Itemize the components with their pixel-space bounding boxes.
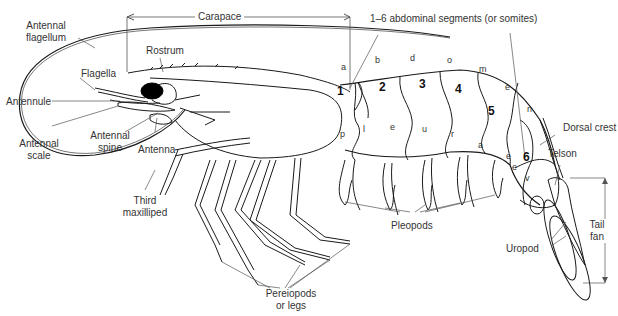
label-rostrum: Rostrum [146,45,184,57]
segment-number-4: 4 [455,82,462,96]
segment-number-6: 6 [523,150,530,164]
eye [141,83,163,99]
label-line: maxilliped [120,207,170,219]
pleura-letter: r [451,129,454,139]
pleopod-3 [422,160,432,210]
label-line: scale [18,150,60,162]
pereiopod-2 [215,160,258,285]
label-telson: Telson [548,148,577,160]
label-line: or legs [262,300,320,312]
label-line: Antennal [89,130,131,142]
segment-number-2: 2 [379,80,386,94]
segment6-letter: e [506,151,511,161]
segment-number-1: 1 [337,84,344,98]
label-antennal-scale: Antennal scale [18,138,60,162]
pleura-letter: e [390,122,395,132]
label-line: Pereiopods [262,288,320,300]
label-tail-fan: Tail fan [585,219,609,243]
label-line: flagellum [18,32,74,44]
abdomen-letter: e [505,82,510,92]
pleura-letter: p [340,129,345,139]
segment-number-3: 3 [419,77,426,91]
pleura-letter: a [478,140,483,150]
pleura-letter: u [422,124,427,134]
pleopod-5 [492,160,503,198]
label-line: fan [585,231,609,243]
label-antennule: Antennule [6,96,51,108]
pereiopod-1 [195,160,222,262]
pleopod-2 [383,163,395,210]
label-line: Tail [585,219,609,231]
pleura-letter: l [363,124,365,134]
label-antenna: Antenna [138,144,175,156]
label-third-maxilliped: Third maxilliped [120,195,170,219]
label-dorsal-crest: Dorsal crest [563,122,616,134]
label-pleopods: Pleopods [391,220,433,232]
label-antennal-spine: Antennal spine [89,130,131,154]
abdomen-letter: d [410,53,415,63]
label-carapace: Carapace [195,11,244,23]
abdomen-letter: o [447,55,452,65]
pereiopod-5 [290,158,350,244]
abdomen-letter: b [375,55,380,65]
label-line: spine [89,142,131,154]
segment6-letter: v [525,173,530,183]
label-abdominal-segments: 1–6 abdominal segments (or somites) [370,13,537,25]
pereiopod-3 [235,160,305,265]
pleopod-4 [457,157,467,205]
label-antennal-flagellum: Antennal flagellum [18,20,74,44]
abdomen-letter: a [341,62,346,72]
label-flagella: Flagella [81,68,116,80]
pleopod-1 [339,160,352,205]
abdomen-letter: m [479,64,487,74]
abdomen-letter: n [527,104,532,114]
label-pereiopods: Pereiopods or legs [262,288,320,312]
label-line: Antennal [18,20,74,32]
segment-number-5: 5 [488,104,495,118]
label-uropod: Uropod [506,243,539,255]
label-line: Antennal [18,138,60,150]
antennal-scale [118,102,175,111]
label-line: Third [120,195,170,207]
segment6-letter: e [512,162,517,172]
